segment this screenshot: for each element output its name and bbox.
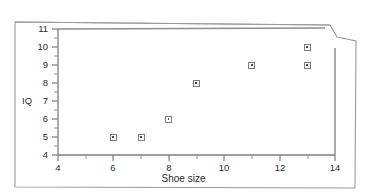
data-point-marker — [304, 44, 311, 51]
y-axis-tick-label-9: 9 — [24, 60, 48, 70]
x-axis-tick-label-8: 8 — [159, 163, 179, 173]
y-axis-title: IQ — [22, 95, 32, 106]
x-axis-tick-label-12: 12 — [270, 163, 290, 173]
y-axis-tick-label-5: 5 — [24, 132, 48, 142]
y-axis-tick-label-6: 6 — [24, 114, 48, 124]
y-axis-tick-label-11: 11 — [24, 24, 48, 34]
y-axis-tick-label-4: 4 — [24, 150, 48, 160]
data-point-marker — [193, 80, 200, 87]
figure-page: 11 10 9 8 7 6 5 4 IQ 4 6 8 10 12 14 Shoe… — [0, 0, 367, 195]
x-axis-tick-label-6: 6 — [103, 163, 123, 173]
plot-axes — [58, 28, 335, 155]
x-axis-tick-label-10: 10 — [214, 163, 234, 173]
data-point-marker — [304, 62, 311, 69]
x-axis-tick-label-14: 14 — [325, 163, 345, 173]
data-point-marker — [248, 62, 255, 69]
y-axis-tick-label-8: 8 — [24, 78, 48, 88]
x-axis-title: Shoe size — [0, 173, 367, 184]
plot-top-border — [58, 28, 325, 29]
x-axis-tick-label-4: 4 — [48, 163, 68, 173]
y-axis-tick-label-10: 10 — [24, 42, 48, 52]
data-point-marker — [165, 116, 172, 123]
data-point-marker — [138, 134, 145, 141]
data-point-marker — [110, 134, 117, 141]
